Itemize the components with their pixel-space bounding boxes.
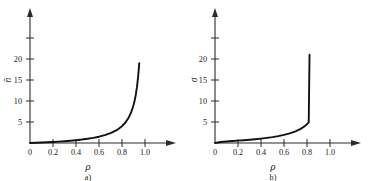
y-axis-title-a: n̄	[3, 77, 13, 82]
x-tick-label-b-0_8: 0.8	[302, 148, 312, 157]
x-tick-label-a-0_4: 0.4	[71, 148, 81, 157]
y-tick-label-b-5: 5	[203, 118, 207, 127]
x-tick-label-a-1_0: 1.0	[140, 148, 150, 157]
panel-caption-a: a)	[85, 173, 92, 181]
panel-caption-b: b)	[270, 173, 277, 181]
x-tick-label-a-0_6: 0.6	[94, 148, 104, 157]
y-axis-arrowhead-a	[27, 8, 33, 17]
chart-panel-b: 5 10 15 20 0 0.2 0.4 0.6 0.8 1.0 σ ρ b)	[188, 0, 375, 181]
chart-b-svg: 5 10 15 20 0 0.2 0.4 0.6 0.8 1.0 σ ρ b)	[188, 0, 375, 181]
x-axis-title-a: ρ	[84, 161, 90, 172]
x-tick-label-a-0: 0	[28, 148, 32, 157]
x-tick-label-b-0_4: 0.4	[256, 148, 266, 157]
curve-b	[215, 55, 310, 143]
y-tick-label-a-15: 15	[14, 76, 22, 85]
x-axis-arrowhead-b	[351, 140, 361, 146]
x-tick-label-b-0_2: 0.2	[233, 148, 243, 157]
y-axis-arrowhead-b	[212, 8, 218, 17]
x-axis-title-b: ρ	[269, 161, 275, 172]
x-tick-label-b-1_0: 1.0	[325, 148, 335, 157]
x-tick-label-b-0: 0	[213, 148, 217, 157]
x-tick-label-a-0_8: 0.8	[117, 148, 127, 157]
y-tick-label-a-20: 20	[14, 55, 22, 64]
y-tick-label-b-10: 10	[199, 97, 207, 106]
y-tick-label-b-20: 20	[199, 55, 207, 64]
y-tick-label-b-15: 15	[199, 76, 207, 85]
x-tick-label-b-0_6: 0.6	[279, 148, 289, 157]
y-axis-title-b: σ	[189, 77, 199, 82]
figure-root: 5 10 15 20 0 0.2 0.4 0.6 0.8 1.0 n̄ ρ a)	[0, 0, 375, 181]
chart-panel-a: 5 10 15 20 0 0.2 0.4 0.6 0.8 1.0 n̄ ρ a)	[0, 0, 187, 181]
x-axis-arrowhead-a	[166, 140, 176, 146]
curve-a	[30, 63, 139, 143]
x-tick-label-a-0_2: 0.2	[48, 148, 58, 157]
y-tick-label-a-5: 5	[18, 118, 22, 127]
y-tick-label-a-10: 10	[14, 97, 22, 106]
chart-a-svg: 5 10 15 20 0 0.2 0.4 0.6 0.8 1.0 n̄ ρ a)	[0, 0, 187, 181]
